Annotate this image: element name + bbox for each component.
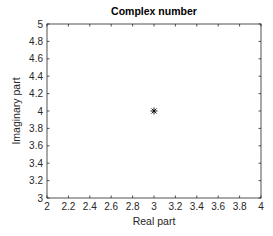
x-tick-label: 3.2 bbox=[168, 201, 182, 212]
x-axis-label: Real part bbox=[133, 215, 176, 227]
asterisk-marker-icon bbox=[151, 108, 158, 115]
y-tick-label: 4.8 bbox=[29, 36, 43, 47]
x-tick-label: 2.8 bbox=[126, 201, 140, 212]
y-tick-label: 3 bbox=[37, 193, 43, 204]
x-tick-label: 4 bbox=[258, 201, 264, 212]
x-tick-label: 2.2 bbox=[61, 201, 75, 212]
figure: 22.22.42.62.833.23.43.63.84 33.23.43.63.… bbox=[0, 0, 273, 236]
y-tick-label: 4.2 bbox=[29, 88, 43, 99]
y-tick-label: 3.4 bbox=[29, 158, 43, 169]
y-axis-label: Imaginary part bbox=[10, 77, 22, 144]
y-tick-label: 3.6 bbox=[29, 140, 43, 151]
x-tick-label: 2 bbox=[44, 201, 50, 212]
x-tick-label: 3 bbox=[151, 201, 157, 212]
y-tick-label: 3.8 bbox=[29, 123, 43, 134]
x-tick-label: 3.8 bbox=[233, 201, 247, 212]
y-tick-label: 4.6 bbox=[29, 53, 43, 64]
x-tick-label: 2.4 bbox=[83, 201, 97, 212]
data-markers bbox=[151, 108, 158, 115]
y-tick-label: 3.2 bbox=[29, 175, 43, 186]
x-tick-label: 3.4 bbox=[190, 201, 204, 212]
x-tick-label: 3.6 bbox=[211, 201, 225, 212]
y-tick-label: 4 bbox=[37, 106, 43, 117]
y-tick-label: 5 bbox=[37, 19, 43, 30]
x-tick-label: 2.6 bbox=[104, 201, 118, 212]
chart-title: Complex number bbox=[111, 5, 197, 17]
y-tick-label: 4.4 bbox=[29, 71, 43, 82]
